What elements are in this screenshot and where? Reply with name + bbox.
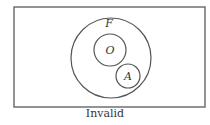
- set-label-a: A: [123, 70, 132, 83]
- set-label-o: O: [105, 44, 114, 57]
- set-label-f: F: [104, 17, 113, 30]
- set-circle-f: [71, 18, 151, 98]
- validity-caption: Invalid: [0, 107, 210, 120]
